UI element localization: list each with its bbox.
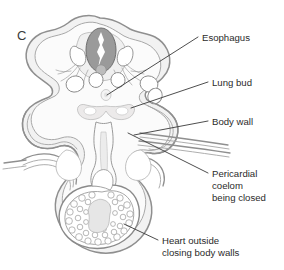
label-pericardial-coelom-line-1: Pericardial [212,168,257,179]
trabecula [75,215,81,221]
heart-chamber-lumen [88,199,110,232]
trabecula [121,228,127,234]
panel-letter: C [17,28,26,43]
trabecula [111,229,117,235]
label-lung-bud: Lung bud [212,77,252,88]
label-body-wall: Body wall [212,116,253,127]
trabecula [111,222,116,227]
lung-bud-lumen-left [84,107,96,115]
trabecula [89,192,95,198]
amnion-band-left-upper [4,160,26,163]
trabecula [105,238,111,244]
trabecula [117,195,123,201]
trabecula [84,210,89,215]
amnion-band-left-lower [3,166,26,169]
trabecula [85,199,91,205]
trabecula [83,230,89,236]
lung-bud-lumen-right [116,107,128,115]
amnion-fold-left-group [3,160,26,169]
embryo-cross-section-diagram: C Esophagus Lung bud Body wall Pericardi… [0,0,284,270]
label-heart-outside: Heart outside closing body walls [162,235,240,258]
trabecula [69,227,75,233]
label-heart-outside-line-1: Heart outside [162,235,219,246]
label-heart-outside-line-2: closing body walls [162,247,240,258]
trabecula [124,202,131,209]
label-pericardial-coelom-line-3: being closed [212,192,266,203]
trabecula [76,234,83,241]
label-pericardial-coelom: Pericardial coelom being closed [212,168,266,203]
figure-panel-c: C Esophagus Lung bud Body wall Pericardi… [0,0,284,270]
trabecula [120,214,126,220]
trabecula [71,201,78,208]
trabecula [77,206,83,212]
esophagus-group [101,90,111,101]
trabecula [66,218,73,225]
trabecula [84,220,89,225]
trabecula [102,232,108,238]
trabecula [92,232,98,238]
trabecula [77,224,83,230]
trabecula [67,209,73,215]
trabecula [95,239,102,246]
trabecula [112,199,118,205]
label-pericardial-coelom-line-2: coelom [212,180,243,191]
trabecula [113,211,118,216]
trabecula [85,238,91,244]
trabecula [127,211,133,217]
trabecula [118,205,124,211]
trabecula [79,195,86,202]
label-esophagus: Esophagus [202,32,250,43]
trabecula [117,223,123,229]
trabecula [108,192,114,198]
